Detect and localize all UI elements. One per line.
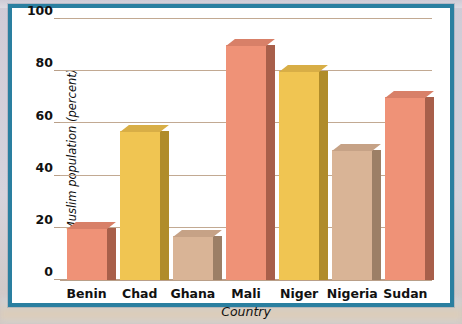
bar-front-face [279,71,319,280]
x-tick-label: Chad [122,286,157,301]
chart-screenshot: Muslim population (percent) 020406080100… [0,0,462,324]
bar-top-face [173,230,222,237]
x-tick-label: Sudan [383,286,427,301]
bar-top-face [67,222,116,229]
bar[interactable]: Niger [279,71,319,280]
x-tick-label: Niger [280,286,318,301]
x-tick-label: Mali [231,286,260,301]
y-tick-label: 40 [36,159,53,174]
bar[interactable]: Chad [120,131,160,280]
x-axis-title: Country [60,304,432,319]
x-tick-label: Nigeria [327,286,378,301]
bar[interactable]: Nigeria [332,150,372,281]
bar[interactable]: Sudan [385,97,425,280]
bar[interactable]: Benin [67,228,107,280]
bar[interactable]: Mali [226,45,266,280]
y-tick-label: 0 [44,264,53,279]
plot-area: Muslim population (percent) 020406080100… [60,19,432,280]
bar-slot: Ghana [166,19,219,280]
bar-front-face [226,45,266,280]
bar-front-face [332,150,372,281]
bar-slot: Chad [113,19,166,280]
bar-chart: Muslim population (percent) 020406080100… [12,8,450,303]
y-tick-label: 100 [27,3,53,18]
bar-slot: Niger [273,19,326,280]
bar-slot: Sudan [379,19,432,280]
bar-slot: Benin [60,19,113,280]
chart-canvas: Muslim population (percent) 020406080100… [12,8,450,303]
x-tick-label: Benin [67,286,107,301]
bar-top-face [332,144,381,151]
bar-slot: Nigeria [326,19,379,280]
bar-slot: Mali [219,19,272,280]
bar-front-face [67,228,107,280]
y-tick-label: 20 [36,212,53,227]
bar-front-face [173,236,213,280]
bars-group: BeninChadGhanaMaliNigerNigeriaSudan [60,19,432,280]
chart-frame: Muslim population (percent) 020406080100… [8,4,454,307]
y-tick-label: 60 [36,107,53,122]
y-tick-label: 80 [36,55,53,70]
bar-side-face [425,97,434,280]
x-tick-label: Ghana [170,286,215,301]
bar-front-face [385,97,425,280]
bar[interactable]: Ghana [173,236,213,280]
bar-front-face [120,131,160,280]
